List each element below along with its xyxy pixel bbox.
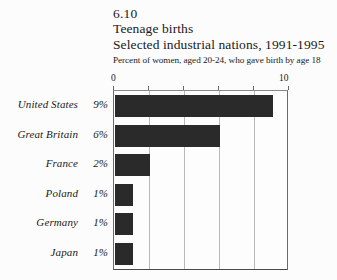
category-name: United States <box>18 98 78 110</box>
x-axis-min-label: 0 <box>111 73 116 83</box>
tick-mark <box>253 86 254 90</box>
bar[interactable] <box>115 154 150 176</box>
plot-area: 0 10 <box>113 90 288 270</box>
category-label-column: United States9%Great Britain6%France2%Po… <box>0 90 108 270</box>
bar[interactable] <box>115 125 220 147</box>
category-value-label: 1% <box>82 187 108 199</box>
category-value-label: 1% <box>82 216 108 228</box>
category-name: Japan <box>51 246 78 258</box>
category-row: United States9% <box>0 93 108 115</box>
category-name: Poland <box>46 187 78 199</box>
category-value-label: 1% <box>82 246 108 258</box>
tick-mark <box>218 86 219 90</box>
bar-row[interactable] <box>115 95 273 117</box>
figure-container: 6.10 Teenage births Selected industrial … <box>0 0 337 280</box>
tick-mark <box>183 86 184 90</box>
tick-mark <box>288 86 289 90</box>
figure-header: 6.10 Teenage births Selected industrial … <box>113 6 333 67</box>
bar[interactable] <box>115 213 133 235</box>
bar-row[interactable] <box>115 154 150 176</box>
category-row: France2% <box>0 152 108 174</box>
category-value-label: 2% <box>82 157 108 169</box>
category-row: Poland1% <box>0 182 108 204</box>
category-value-label: 9% <box>82 98 108 110</box>
bar-row[interactable] <box>115 184 133 206</box>
category-row: Japan1% <box>0 241 108 263</box>
tick-mark <box>113 86 114 90</box>
category-name: Great Britain <box>18 128 78 140</box>
figure-number: 6.10 <box>113 6 333 21</box>
category-value-label: 6% <box>82 128 108 140</box>
tick-mark <box>148 86 149 90</box>
bar[interactable] <box>115 95 273 117</box>
figure-note: Percent of women, aged 20-24, who gave b… <box>113 54 333 67</box>
category-name: France <box>46 157 78 169</box>
x-axis-max-label: 10 <box>279 73 289 83</box>
figure-subtitle: Selected industrial nations, 1991-1995 <box>113 37 333 53</box>
figure-title: Teenage births <box>113 21 333 37</box>
bar[interactable] <box>115 184 133 206</box>
category-name: Germany <box>36 216 78 228</box>
category-row: Great Britain6% <box>0 123 108 145</box>
bar-series <box>115 92 286 268</box>
bar-row[interactable] <box>115 125 220 147</box>
bar[interactable] <box>115 243 133 265</box>
plot-frame <box>113 90 288 270</box>
bar-row[interactable] <box>115 243 133 265</box>
bar-row[interactable] <box>115 213 133 235</box>
category-row: Germany1% <box>0 211 108 233</box>
